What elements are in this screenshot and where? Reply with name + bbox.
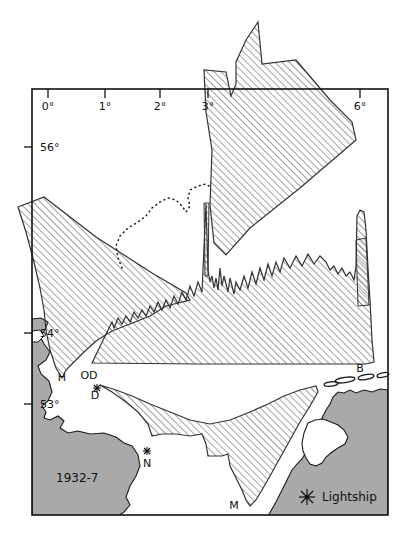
legend-lightship-icon	[299, 489, 315, 505]
lightship-marker-n-icon	[143, 447, 151, 455]
period-annotation: 1932-7	[56, 471, 99, 485]
dotted-boundary	[116, 184, 212, 268]
axis-label-lon-6: 6°	[354, 100, 367, 113]
axis-label-lon-1: 1°	[99, 100, 112, 113]
station-label-d: D	[91, 389, 99, 402]
map-canvas: 0° 1° 2° 3° 6° 56° 54° 53° H OD D N M B …	[0, 0, 406, 541]
chart-map-container: 0° 1° 2° 3° 6° 56° 54° 53° H OD D N M B …	[0, 0, 406, 541]
axis-label-lat-56: 56°	[40, 141, 60, 154]
hatched-spike-center	[204, 203, 209, 276]
axis-label-lon-3: 3°	[202, 100, 215, 113]
station-label-b: B	[356, 362, 364, 375]
legend-lightship-label: Lightship	[322, 490, 377, 504]
axis-label-lon-0: 0°	[42, 100, 55, 113]
axis-label-lat-53: 53°	[40, 398, 60, 411]
station-label-h: H	[58, 371, 66, 384]
lightship-marker-d-icon	[93, 384, 101, 392]
station-label-od: OD	[80, 369, 97, 382]
station-label-m: M	[229, 499, 239, 512]
axis-label-lon-2: 2°	[154, 100, 167, 113]
hatched-region-north	[204, 22, 356, 255]
station-label-n: N	[143, 457, 151, 470]
axis-left-ticks	[24, 147, 32, 404]
axis-label-lat-54: 54°	[40, 327, 60, 340]
